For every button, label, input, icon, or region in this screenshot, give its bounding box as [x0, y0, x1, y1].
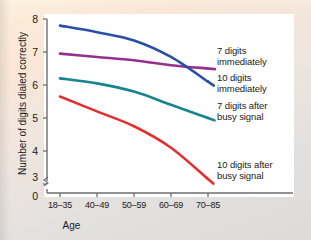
series-leader-2 — [208, 118, 215, 120]
x-axis-title-text: Age — [63, 220, 81, 231]
y-axis-title: Number of digits dialed correctly — [17, 9, 28, 199]
series-label-7-digits-after-busy-signal: 7 digits after busy signal — [217, 101, 267, 122]
series-line-2 — [60, 78, 208, 118]
series-label-10-digits-immediately: 10 digits immediately — [217, 73, 267, 94]
x-axis-title: Age — [0, 220, 311, 231]
series-label-7-digits-immediately: 7 digits immediately — [217, 46, 267, 67]
series-leader-1 — [208, 82, 214, 86]
figure: 8 7 6 5 4 3 0 18–35 40–49 50–59 60–69 70… — [0, 0, 311, 240]
series-leader-3 — [208, 179, 213, 184]
series-leader-0 — [208, 69, 215, 70]
series-line-1 — [60, 26, 208, 82]
x-tick-label-4: 70–85 — [186, 200, 230, 210]
series-label-10-digits-after-busy-signal: 10 digits after busy signal — [217, 160, 273, 181]
